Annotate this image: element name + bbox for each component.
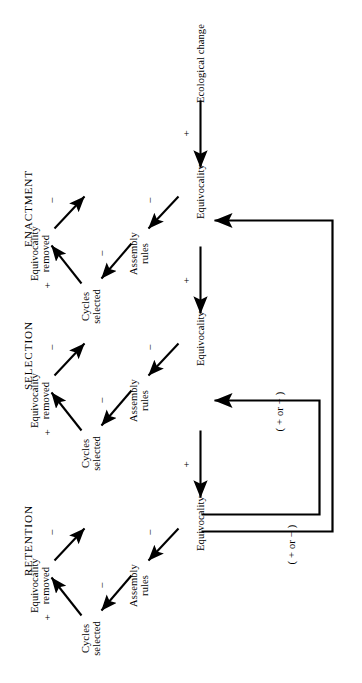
arrow-selection-equivocality-removed-to-equivocality [54, 343, 84, 375]
sign-selection-equivocality-removed-to-equivocality: − [46, 344, 58, 350]
sign-enactment-equivocality-removed-to-equivocality: − [46, 197, 58, 203]
stage-label-retention: RETENTION [22, 505, 34, 576]
sign-enactment-to-selection: + [180, 277, 192, 283]
arrow-enactment-equivocality-removed-to-equivocality [54, 196, 84, 228]
sign-enactment-equivocality-to-assembly-rules: − [144, 197, 156, 203]
sign-ecological-change-to-enactment: + [180, 130, 192, 136]
feedback-loop-label-retention-to-enactment: ( + or − ) [285, 524, 296, 564]
sign-selection-equivocality-to-assembly-rules: − [144, 344, 156, 350]
arrow-selection-cycles-selected-to-equivocality-removed [51, 392, 81, 430]
node-retention-equivocality: Equivocality [194, 496, 205, 551]
node-enactment-cycles-selected: Cycles selected [80, 289, 102, 324]
node-selection-cycles-selected: Cycles selected [80, 436, 102, 471]
sign-enactment-assembly-rules-to-cycles-selected: − [96, 250, 108, 256]
diagram-canvas: Ecological change + Equivocality Assembl… [0, 0, 362, 683]
feedback-loop-label-retention-to-selection: ( + or − ) [273, 391, 284, 431]
sign-retention-assembly-rules-to-cycles-selected: − [96, 582, 108, 588]
diagram-page: Ecological change + Equivocality Assembl… [0, 0, 362, 683]
sign-selection-cycles-selected-to-equivocality-removed: + [41, 429, 53, 435]
arrow-retention-assembly-rules-to-cycles-selected [101, 575, 131, 610]
feedback-loop-retention-to-enactment [201, 220, 332, 531]
stage-label-enactment: ENACTMENT [22, 169, 34, 246]
sign-enactment-cycles-selected-to-equivocality-removed: + [41, 282, 53, 288]
node-selection-equivocality: Equivocality [194, 311, 205, 366]
feedback-loop-retention-to-selection [201, 400, 319, 514]
diagram-lines-layer [0, 0, 362, 683]
arrow-enactment-cycles-selected-to-equivocality-removed [51, 245, 81, 283]
sign-selection-assembly-rules-to-cycles-selected: − [96, 397, 108, 403]
arrow-retention-equivocality-removed-to-equivocality [54, 528, 84, 560]
sign-retention-cycles-selected-to-equivocality-removed: + [41, 614, 53, 620]
sign-retention-equivocality-removed-to-equivocality: − [46, 529, 58, 535]
sign-selection-to-retention: + [180, 461, 192, 467]
arrow-enactment-assembly-rules-to-cycles-selected [101, 243, 131, 278]
sign-retention-equivocality-to-assembly-rules: − [144, 529, 156, 535]
node-selection-assembly-rules: Assembly rules [128, 379, 150, 422]
node-ecological-change: Ecological change [194, 24, 205, 103]
node-retention-cycles-selected: Cycles selected [80, 621, 102, 656]
arrow-selection-assembly-rules-to-cycles-selected [101, 390, 131, 425]
node-retention-assembly-rules: Assembly rules [128, 564, 150, 607]
node-enactment-assembly-rules: Assembly rules [128, 232, 150, 275]
node-enactment-equivocality: Equivocality [194, 164, 205, 219]
arrow-retention-cycles-selected-to-equivocality-removed [51, 577, 81, 615]
stage-label-selection: SELECTION [22, 320, 34, 389]
